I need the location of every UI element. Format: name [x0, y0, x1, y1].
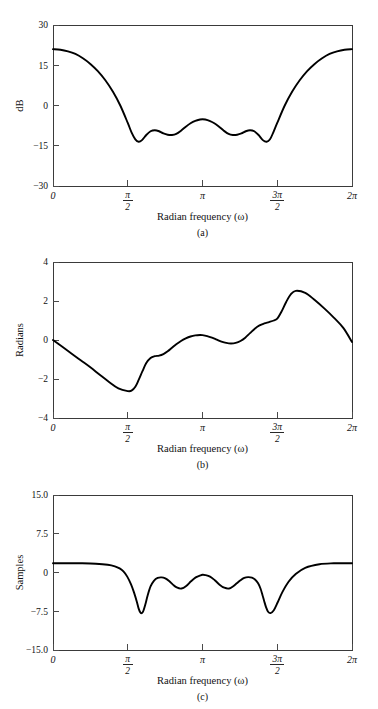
ytick-label-2: 0 — [43, 335, 48, 345]
x-axis-label: Radian frequency (ω) — [157, 675, 248, 687]
ytick-label-4: 30 — [39, 20, 49, 30]
xtick-label-4: 2π — [347, 190, 358, 201]
x-axis-group: 0π2π3π22π — [51, 180, 358, 212]
xtick-label-3-numerator: 3π — [271, 422, 282, 432]
chart-svg-b: −4−20240π2π3π22πRadiansRadian frequency … — [0, 236, 378, 474]
xtick-label-4: 2π — [347, 654, 358, 665]
data-curve — [53, 563, 352, 613]
xtick-label-4: 2π — [347, 422, 358, 433]
xtick-label-1-denominator: 2 — [125, 202, 130, 212]
chart-panel-b: −4−20240π2π3π22πRadiansRadian frequency … — [0, 236, 378, 474]
y-axis-group: −30−1501530 — [33, 20, 59, 191]
xtick-label-3-denominator: 2 — [275, 434, 280, 444]
y-axis-group: −4−2024 — [38, 257, 59, 423]
x-axis-label: Radian frequency (ω) — [157, 211, 248, 223]
chart-panel-c: −15.0−7.507.515.00π2π3π22πSamplesRadian … — [0, 470, 378, 709]
y-axis-label: dB — [14, 99, 25, 111]
xtick-label-0: 0 — [51, 422, 56, 433]
ytick-label-1: −7.5 — [31, 607, 48, 617]
ytick-label-2: 0 — [43, 101, 48, 111]
ytick-label-3: 2 — [43, 296, 48, 306]
plot-frame — [53, 495, 352, 650]
xtick-label-1-denominator: 2 — [125, 666, 130, 676]
xtick-label-1-numerator: π — [125, 422, 130, 432]
plot-frame — [53, 262, 352, 418]
x-axis-group: 0π2π3π22π — [51, 412, 358, 444]
y-axis-group: −15.0−7.507.515.0 — [26, 490, 59, 655]
xtick-label-3-numerator: 3π — [271, 190, 282, 200]
ytick-label-3: 7.5 — [36, 529, 48, 539]
ytick-label-1: −2 — [38, 374, 48, 384]
plot-frame — [53, 25, 352, 186]
xtick-label-1-numerator: π — [125, 654, 130, 664]
xtick-label-3-denominator: 2 — [275, 666, 280, 676]
xtick-label-2: π — [200, 422, 206, 433]
chart-panel-a: −30−15015300π2π3π22πdBRadian frequency (… — [0, 0, 378, 240]
data-curve — [53, 49, 352, 142]
figure-container: −30−15015300π2π3π22πdBRadian frequency (… — [0, 0, 378, 709]
xtick-label-3-numerator: 3π — [271, 654, 282, 664]
ytick-label-0: −30 — [33, 181, 48, 191]
xtick-label-2: π — [200, 654, 206, 665]
x-axis-group: 0π2π3π22π — [51, 644, 358, 676]
panel-caption: (c) — [197, 691, 208, 703]
xtick-label-0: 0 — [51, 190, 56, 201]
ytick-label-2: 0 — [43, 568, 48, 578]
data-curve — [53, 291, 352, 392]
ytick-label-0: −15.0 — [26, 645, 48, 655]
ytick-label-1: −15 — [33, 141, 48, 151]
y-axis-label: Samples — [14, 555, 25, 591]
y-axis-label: Radians — [14, 323, 25, 357]
xtick-label-2: π — [200, 190, 206, 201]
xtick-label-0: 0 — [51, 654, 56, 665]
ytick-label-3: 15 — [39, 61, 49, 71]
chart-svg-c: −15.0−7.507.515.00π2π3π22πSamplesRadian … — [0, 470, 378, 709]
xtick-label-1-numerator: π — [125, 190, 130, 200]
xtick-label-1-denominator: 2 — [125, 434, 130, 444]
x-axis-label: Radian frequency (ω) — [157, 443, 248, 455]
ytick-label-4: 4 — [43, 257, 48, 267]
ytick-label-4: 15.0 — [31, 490, 48, 500]
xtick-label-3-denominator: 2 — [275, 202, 280, 212]
ytick-label-0: −4 — [38, 413, 48, 423]
chart-svg-a: −30−15015300π2π3π22πdBRadian frequency (… — [0, 0, 378, 240]
